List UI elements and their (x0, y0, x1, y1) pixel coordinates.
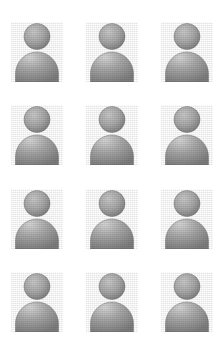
user-avatar-icon[interactable]: User (11, 189, 63, 249)
avatar-cell[interactable]: User (75, 272, 150, 355)
user-avatar-glyph (161, 105, 213, 165)
avatar-label: User (11, 165, 12, 166)
avatar-label: User (161, 332, 162, 333)
user-avatar-glyph (11, 105, 63, 165)
user-avatar-icon[interactable]: User (86, 272, 138, 332)
avatar-cell[interactable]: User (0, 22, 75, 105)
user-avatar-icon[interactable]: User (161, 272, 213, 332)
avatar-label: User (11, 249, 12, 250)
avatar-label: User (161, 165, 162, 166)
avatar-cell[interactable]: User (149, 22, 224, 105)
avatar-cell[interactable]: User (0, 272, 75, 355)
user-avatar-icon[interactable]: User (11, 105, 63, 165)
avatar-cell[interactable]: User (75, 105, 150, 188)
user-avatar-glyph (86, 189, 138, 249)
avatar-label: User (11, 82, 12, 83)
avatar-label: User (161, 82, 162, 83)
avatar-cell[interactable]: User (149, 189, 224, 272)
avatar-grid: UserUserUserUserUserUserUserUserUserUser… (0, 0, 224, 355)
user-avatar-glyph (86, 22, 138, 82)
user-avatar-glyph (86, 272, 138, 332)
avatar-label: User (86, 82, 87, 83)
user-avatar-glyph (161, 272, 213, 332)
avatar-cell[interactable]: User (75, 22, 150, 105)
avatar-label: User (86, 249, 87, 250)
avatar-label: User (86, 332, 87, 333)
user-avatar-glyph (11, 189, 63, 249)
user-avatar-icon[interactable]: User (161, 22, 213, 82)
avatar-label: User (11, 332, 12, 333)
user-avatar-icon[interactable]: User (86, 189, 138, 249)
user-avatar-icon[interactable]: User (86, 22, 138, 82)
avatar-label: User (86, 165, 87, 166)
avatar-cell[interactable]: User (0, 105, 75, 188)
user-avatar-icon[interactable]: User (161, 189, 213, 249)
user-avatar-glyph (161, 22, 213, 82)
avatar-cell[interactable]: User (0, 189, 75, 272)
avatar-cell[interactable]: User (149, 272, 224, 355)
user-avatar-glyph (11, 272, 63, 332)
user-avatar-glyph (11, 22, 63, 82)
avatar-cell[interactable]: User (149, 105, 224, 188)
user-avatar-icon[interactable]: User (86, 105, 138, 165)
user-avatar-icon[interactable]: User (11, 272, 63, 332)
avatar-cell[interactable]: User (75, 189, 150, 272)
avatar-label: User (161, 249, 162, 250)
user-avatar-icon[interactable]: User (11, 22, 63, 82)
user-avatar-glyph (86, 105, 138, 165)
user-avatar-glyph (161, 189, 213, 249)
user-avatar-icon[interactable]: User (161, 105, 213, 165)
